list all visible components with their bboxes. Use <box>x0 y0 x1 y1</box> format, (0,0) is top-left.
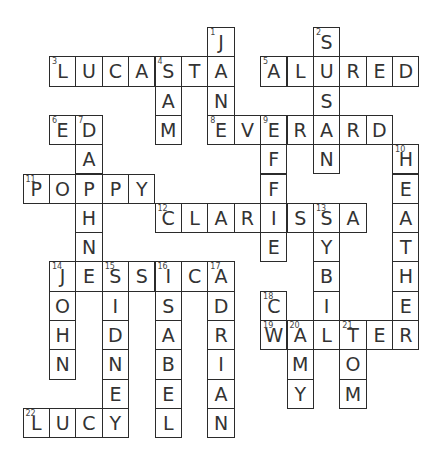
crossword-cell[interactable]: U <box>75 56 102 86</box>
crossword-cell[interactable]: N <box>207 86 234 116</box>
crossword-cell[interactable]: A <box>207 379 234 409</box>
crossword-cell[interactable]: H <box>75 203 102 233</box>
crossword-cell[interactable]: 17A <box>207 261 234 291</box>
crossword-cell[interactable]: C <box>75 408 102 438</box>
crossword-cell[interactable]: S <box>155 291 182 321</box>
crossword-cell[interactable]: R <box>207 320 234 350</box>
crossword-cell[interactable]: R <box>392 320 419 350</box>
crossword-cell[interactable]: F <box>260 174 287 204</box>
crossword-cell[interactable]: A <box>392 203 419 233</box>
crossword-cell[interactable]: E <box>392 174 419 204</box>
crossword-cell[interactable]: N <box>313 144 340 174</box>
crossword-cell[interactable]: T <box>392 232 419 262</box>
crossword-cell[interactable]: 12C <box>155 203 182 233</box>
crossword-cell[interactable]: I <box>102 291 129 321</box>
crossword-cell[interactable]: 14J <box>49 261 76 291</box>
crossword-cell[interactable]: T <box>181 56 208 86</box>
crossword-cell[interactable]: H <box>392 261 419 291</box>
crossword-cell[interactable]: L <box>181 203 208 233</box>
crossword-cell[interactable]: L <box>287 56 314 86</box>
crossword-cell[interactable]: 5A <box>260 56 287 86</box>
crossword-cell[interactable]: Y <box>128 174 155 204</box>
crossword-cell[interactable]: D <box>392 56 419 86</box>
crossword-cell[interactable]: M <box>155 115 182 145</box>
crossword-cell[interactable]: E <box>260 232 287 262</box>
crossword-cell[interactable]: O <box>339 349 366 379</box>
crossword-cell[interactable]: B <box>155 349 182 379</box>
cell-letter: A <box>340 207 365 229</box>
crossword-cell[interactable]: C <box>102 56 129 86</box>
crossword-cell[interactable]: A <box>128 56 155 86</box>
crossword-cell[interactable]: U <box>313 56 340 86</box>
crossword-cell[interactable]: 10H <box>392 144 419 174</box>
crossword-cell[interactable]: C <box>181 261 208 291</box>
crossword-cell[interactable]: E <box>366 56 393 86</box>
crossword-cell[interactable]: P <box>75 174 102 204</box>
crossword-cell[interactable]: 1J <box>207 27 234 57</box>
crossword-cell[interactable]: 16I <box>155 261 182 291</box>
crossword-cell[interactable]: 20A <box>287 320 314 350</box>
crossword-cell[interactable]: E <box>392 291 419 321</box>
crossword-cell[interactable]: A <box>207 203 234 233</box>
crossword-cell[interactable]: 11P <box>23 174 50 204</box>
crossword-cell[interactable]: D <box>102 320 129 350</box>
crossword-cell[interactable]: R <box>339 56 366 86</box>
crossword-cell[interactable]: V <box>234 115 261 145</box>
crossword-cell[interactable]: O <box>49 174 76 204</box>
crossword-cell[interactable]: M <box>339 379 366 409</box>
crossword-cell[interactable]: E <box>75 261 102 291</box>
crossword-cell[interactable]: A <box>313 115 340 145</box>
crossword-cell[interactable]: 19W <box>260 320 287 350</box>
crossword-cell[interactable]: N <box>49 349 76 379</box>
crossword-cell[interactable]: S <box>128 261 155 291</box>
crossword-cell[interactable]: E <box>102 379 129 409</box>
crossword-cell[interactable]: 18C <box>260 291 287 321</box>
crossword-cell[interactable]: S <box>313 86 340 116</box>
crossword-cell[interactable]: 4S <box>155 56 182 86</box>
crossword-cell[interactable]: 9E <box>260 115 287 145</box>
crossword-cell[interactable]: Y <box>102 408 129 438</box>
crossword-cell[interactable]: 2S <box>313 27 340 57</box>
crossword-cell[interactable]: U <box>49 408 76 438</box>
crossword-cell[interactable]: 3L <box>49 56 76 86</box>
crossword-cell[interactable]: I <box>313 291 340 321</box>
crossword-cell[interactable]: A <box>155 320 182 350</box>
crossword-cell[interactable]: M <box>287 349 314 379</box>
crossword-cell[interactable]: R <box>234 203 261 233</box>
crossword-cell[interactable]: D <box>207 291 234 321</box>
crossword-cell[interactable]: I <box>207 349 234 379</box>
crossword-cell[interactable]: I <box>260 203 287 233</box>
crossword-cell[interactable]: 15S <box>102 261 129 291</box>
crossword-cell[interactable]: 7D <box>75 115 102 145</box>
crossword-cell[interactable]: D <box>366 115 393 145</box>
crossword-cell[interactable]: 6E <box>49 115 76 145</box>
crossword-cell[interactable]: 13S <box>313 203 340 233</box>
crossword-cell[interactable]: A <box>339 203 366 233</box>
crossword-cell[interactable]: R <box>339 115 366 145</box>
crossword-cell[interactable]: H <box>49 320 76 350</box>
crossword-cell[interactable]: N <box>102 349 129 379</box>
crossword-cell[interactable]: N <box>75 232 102 262</box>
cell-letter: N <box>50 353 75 375</box>
crossword-cell[interactable]: Y <box>287 379 314 409</box>
crossword-cell[interactable]: A <box>155 86 182 116</box>
crossword-cell[interactable]: B <box>313 261 340 291</box>
crossword-cell[interactable]: Y <box>313 232 340 262</box>
crossword-cell[interactable]: S <box>287 203 314 233</box>
crossword-cell[interactable]: 22L <box>23 408 50 438</box>
crossword-cell[interactable]: A <box>207 56 234 86</box>
crossword-cell[interactable]: P <box>102 174 129 204</box>
crossword-cell[interactable]: F <box>260 144 287 174</box>
crossword-cell[interactable]: N <box>207 408 234 438</box>
crossword-cell[interactable]: E <box>366 320 393 350</box>
crossword-cell[interactable]: 8E <box>207 115 234 145</box>
crossword-cell[interactable]: O <box>49 291 76 321</box>
cell-letter: E <box>393 295 418 317</box>
cell-letter: I <box>208 353 233 375</box>
crossword-cell[interactable]: E <box>155 379 182 409</box>
crossword-cell[interactable]: L <box>313 320 340 350</box>
crossword-cell[interactable]: A <box>75 144 102 174</box>
crossword-cell[interactable]: L <box>155 408 182 438</box>
crossword-cell[interactable]: R <box>287 115 314 145</box>
crossword-cell[interactable]: 21T <box>339 320 366 350</box>
